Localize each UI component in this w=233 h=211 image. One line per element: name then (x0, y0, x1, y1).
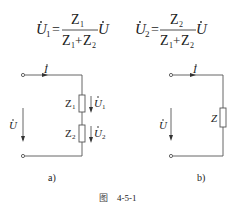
formula-u2-rhs: U (196, 21, 208, 37)
z2-label: Z (65, 127, 72, 139)
formula-u2-num: Z (170, 12, 179, 27)
z-label: Z (211, 112, 218, 124)
figure-caption-number: 4-5-1 (117, 193, 137, 203)
formula-u1-plus: + (75, 33, 82, 48)
voltage-arrow-icon (21, 136, 25, 142)
resistor-z2 (79, 125, 85, 142)
formula-u1-rhs: U (98, 21, 110, 37)
circuit-b-labels: I U Z b) (159, 63, 218, 184)
circuit-a-labels: I U Z 1 Z 2 U 1 U 2 a) (9, 63, 106, 184)
formula-u1-den-b: Z (83, 33, 92, 48)
u2-sub: 2 (102, 133, 106, 141)
formula-u1-lhs-sub: 1 (46, 29, 51, 39)
formula-u2-num-sub: 2 (179, 20, 183, 29)
formula-u2-plus: + (173, 33, 180, 48)
caption-a: a) (48, 172, 56, 184)
figure-4-5-1: U 1 = Z 1 Z 1 + Z 2 U U 2 = Z 2 Z 1 + Z … (0, 0, 233, 211)
z1-label: Z (65, 97, 72, 109)
formula-u1: U 1 = Z 1 Z 1 + Z 2 U (36, 12, 110, 50)
resistor-z (220, 108, 226, 127)
formula-u2-eq: = (151, 22, 159, 37)
formula-u1-den-b-sub: 2 (92, 41, 96, 50)
caption-b: b) (197, 172, 205, 184)
current-label: I (43, 63, 49, 75)
formula-u2-den-a: Z (160, 33, 169, 48)
u1-arrow-icon (89, 107, 93, 113)
u2-arrow-icon (89, 137, 93, 143)
formula-u2-den-b: Z (181, 33, 190, 48)
current-label: I (192, 63, 198, 75)
figure-caption: 图 4-5-1 (99, 193, 137, 203)
formula-u1-num-sub: 1 (80, 20, 84, 29)
formula-u2-lhs-sub: 2 (145, 29, 150, 39)
z2-sub: 2 (72, 133, 76, 141)
resistor-z1 (79, 95, 85, 112)
u1-sub: 1 (102, 103, 106, 111)
figure-caption-prefix: 图 (99, 193, 108, 203)
z1-sub: 1 (72, 103, 76, 111)
voltage-label: U (9, 119, 18, 131)
formula-u1-den-a: Z (62, 33, 71, 48)
terminal-bottom (21, 154, 24, 157)
terminal-bottom (169, 154, 172, 157)
formula-u2: U 2 = Z 2 Z 1 + Z 2 U (135, 12, 208, 50)
terminal-top (169, 73, 172, 76)
voltage-arrow-icon (169, 135, 173, 141)
terminal-top (21, 73, 24, 76)
formula-u2-den-b-sub: 2 (190, 41, 194, 50)
circuit-b (169, 73, 226, 158)
voltage-label: U (159, 119, 168, 131)
circuit-a (21, 73, 93, 158)
formula-u1-num: Z (71, 12, 80, 27)
formula-u1-eq: = (52, 22, 60, 37)
